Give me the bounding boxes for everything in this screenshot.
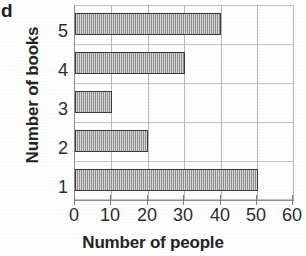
y-tick-label: 5 [44,22,68,40]
x-tick-label: 30 [163,206,203,225]
x-tick-mark [147,195,148,205]
x-tick-label: 0 [54,206,94,225]
y-tick-label: 1 [44,178,68,196]
x-tick-mark [183,195,184,205]
x-tick-label: 50 [236,206,276,225]
x-tick-label: 10 [90,206,130,225]
y-tick-label: 4 [44,61,68,79]
bar-3 [75,91,112,113]
x-tick-mark [220,195,221,205]
y-tick-label: 2 [44,139,68,157]
x-tick-label: 20 [127,206,167,225]
panel-label: d [1,1,13,20]
y-tick-label: 3 [44,100,68,118]
bar-chart-figure: d Number of books 5 4 3 2 1 0 10 20 30 [0,0,306,256]
bar-5 [75,13,221,35]
x-tick-label: 40 [200,206,240,225]
x-axis-title: Number of people [0,234,306,252]
x-tick-mark [292,195,293,205]
bar-2 [75,130,148,152]
plot-area [74,5,293,200]
x-tick-mark [110,195,111,205]
vertical-gridline [293,5,294,200]
bar-1 [75,169,258,191]
y-axis-title: Number of books [24,0,42,190]
x-tick-mark [74,195,75,205]
x-axis-line [74,200,294,201]
y-axis-tick-labels: 5 4 3 2 1 [44,5,68,200]
x-tick-label: 60 [272,206,306,225]
x-tick-mark [256,195,257,205]
bar-4 [75,52,185,74]
